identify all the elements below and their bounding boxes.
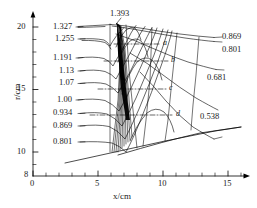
y-axis-minor-ticks bbox=[33, 40, 36, 165]
marker-label-c: c bbox=[169, 84, 173, 92]
contour-label-top: 1.393 bbox=[110, 9, 129, 18]
contour-label-right-1: 0.869 bbox=[222, 32, 241, 41]
contour-label-left-9: 0.801 bbox=[53, 137, 72, 146]
contour-label-left-7: 0.934 bbox=[53, 108, 72, 117]
contour-label-left-5: 1.07 bbox=[59, 78, 74, 87]
contour-label-left-1: 1.327 bbox=[53, 22, 72, 31]
lower-wall-boundary bbox=[65, 127, 241, 163]
x-tick-label-10: 10 bbox=[158, 179, 167, 188]
x-tick-label-15: 15 bbox=[223, 179, 232, 188]
y-axis-origin-label: 8 bbox=[24, 170, 28, 179]
contour-label-left-6: 1.00 bbox=[57, 95, 72, 104]
y-tick-label-20: 20 bbox=[17, 22, 26, 31]
x-tick-label-5: 5 bbox=[95, 179, 99, 188]
marker-label-d: d bbox=[176, 110, 180, 118]
contour-label-left-2: 1.255 bbox=[55, 34, 74, 43]
x-axis-minor-ticks bbox=[46, 173, 241, 176]
contour-label-right-4: 0.538 bbox=[200, 112, 219, 121]
contour-label-right-2: 0.801 bbox=[222, 45, 241, 54]
contour-label-left-4: 1.13 bbox=[59, 66, 74, 75]
dash-dot-reference-lines bbox=[90, 44, 172, 115]
contour-label-right-3: 0.681 bbox=[207, 73, 226, 82]
left-label-leaders bbox=[76, 27, 85, 143]
top-label-leader bbox=[117, 18, 121, 23]
marker-label-b: b bbox=[171, 56, 175, 64]
contour-plot-figure: 1.327 1.255 1.191 1.13 1.07 1.00 0.934 0… bbox=[0, 0, 257, 208]
y-tick-label-10: 10 bbox=[17, 147, 26, 156]
y-axis-major-ticks bbox=[33, 27, 38, 152]
y-axis-title: r/cm bbox=[12, 84, 22, 101]
x-axis-major-ticks bbox=[33, 171, 228, 176]
plot-canvas bbox=[0, 0, 257, 208]
x-axis-title: x/cm bbox=[113, 192, 131, 201]
contour-label-left-8: 0.869 bbox=[53, 121, 72, 130]
contour-label-left-3: 1.191 bbox=[53, 53, 72, 62]
contour-lines bbox=[78, 25, 218, 153]
y-axis bbox=[31, 11, 36, 176]
x-tick-label-0: 0 bbox=[30, 179, 34, 188]
marker-label-a: a bbox=[163, 39, 167, 47]
x-axis bbox=[33, 174, 250, 179]
